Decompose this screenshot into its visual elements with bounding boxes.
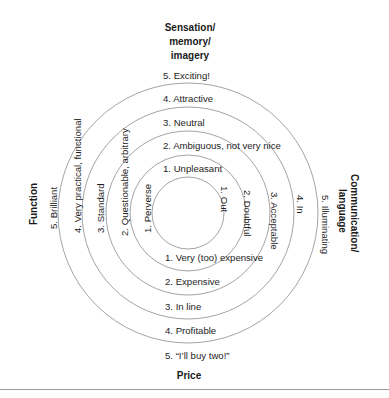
bottom-label-5: 5. “I’ll buy two!”	[165, 350, 230, 361]
top-title-line-3: imagery	[171, 50, 210, 61]
bottom-axis-labels: 1. Very (too) expensive 2. Expensive 3. …	[165, 252, 263, 381]
ring-1	[152, 177, 224, 249]
left-label-2: 2. Questionable, arbitrary	[119, 128, 130, 236]
right-label-1: 1. Out	[219, 186, 230, 212]
left-label-5: 5. Brilliant	[48, 187, 59, 229]
top-label-3: 3. Neutral	[163, 117, 205, 128]
top-axis-title: Sensation/ memory/ imagery	[165, 22, 216, 61]
top-title-line-2: memory/	[169, 36, 211, 47]
right-label-5: 5. Illuminating	[320, 195, 331, 254]
top-axis-labels: 5. Exciting! 4. Attractive 3. Neutral 2.…	[163, 70, 281, 174]
bottom-label-2: 2. Expensive	[165, 276, 220, 287]
bottom-label-1: 1. Very (too) expensive	[165, 252, 263, 263]
right-label-3: 3. Acceptable	[269, 192, 280, 250]
left-label-3: 3. Standard	[95, 183, 106, 233]
left-label-4: 4. Very practical, functional	[72, 118, 83, 233]
top-label-4: 4. Attractive	[163, 93, 213, 104]
right-title-line-2: language	[337, 189, 348, 233]
left-axis-title: Function	[28, 183, 39, 225]
right-title-line-1: Communication/	[349, 174, 360, 253]
ring-4	[82, 107, 294, 319]
top-label-5: 5. Exciting!	[163, 70, 210, 81]
right-label-4: 4. In	[295, 195, 306, 214]
left-label-1: 1. Perverse	[142, 184, 153, 233]
bottom-label-3: 3. In line	[165, 301, 201, 312]
bottom-label-4: 4. Profitable	[165, 325, 216, 336]
evaluation-rings-diagram: Sensation/ memory/ imagery 5. Exciting! …	[0, 0, 389, 398]
top-title-line-1: Sensation/	[165, 22, 216, 33]
top-label-1: 1. Unpleasant	[163, 163, 223, 174]
right-label-2: 2. Doubtful	[242, 190, 253, 236]
top-label-2: 2. Ambiguous, not very nice	[163, 140, 281, 151]
left-axis-labels: Function 5. Brilliant 4. Very practical,…	[28, 118, 153, 236]
bottom-axis-title: Price	[177, 370, 202, 381]
